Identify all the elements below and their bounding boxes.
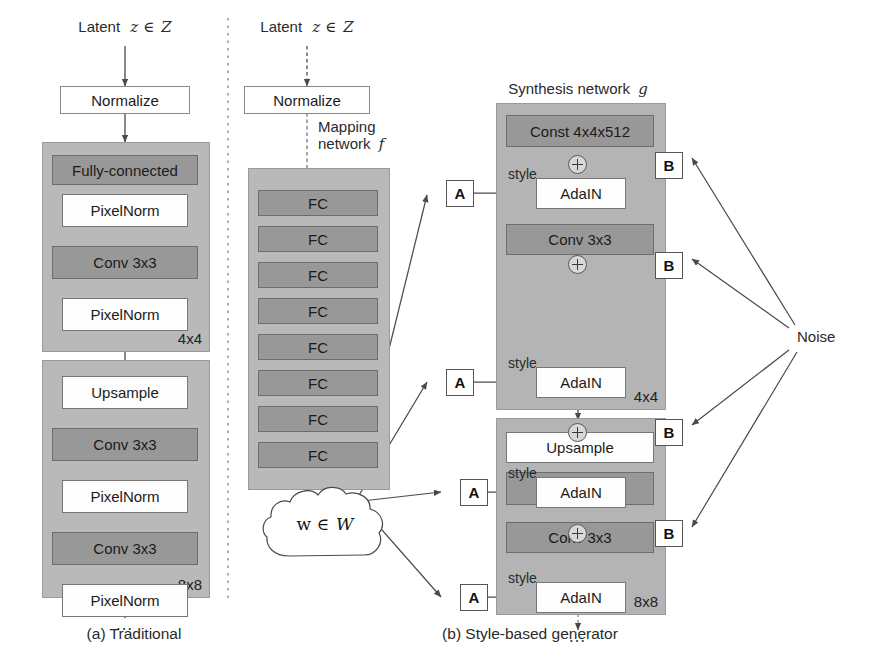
fc-layer-6[interactable]: FC (258, 370, 378, 396)
fc-layer-8[interactable]: FC (258, 442, 378, 468)
adain-box-3[interactable]: AdaIN (536, 477, 626, 508)
adain-box-4[interactable]: AdaIN (536, 582, 626, 613)
w-space: W (334, 514, 353, 534)
fc-label: FC (308, 339, 328, 356)
adain-box-1[interactable]: AdaIN (536, 178, 626, 209)
fc-label: FC (308, 303, 328, 320)
panel-a-pixelnorm-box-3[interactable]: PixelNorm (62, 480, 188, 513)
noise-add-node-1 (568, 155, 587, 174)
latent-symbol: z ∈ (306, 18, 336, 36)
synthesis-network-title: Synthesis network g (508, 80, 648, 98)
fc-layer-7[interactable]: FC (258, 406, 378, 432)
latent-space: Z (158, 18, 171, 36)
fc-layer-3[interactable]: FC (258, 262, 378, 288)
intermediate-latent-cloud: w ∈ W (258, 482, 392, 566)
fc-label: FC (308, 375, 328, 392)
affine-transform-a-2[interactable]: A (446, 369, 474, 396)
noise-scale-b-1[interactable]: B (655, 152, 683, 179)
synthesis-title-symbol: g (634, 80, 648, 98)
panel-a-pixelnorm-box-1[interactable]: PixelNorm (62, 194, 188, 227)
mapping-title-line2: network (318, 135, 371, 152)
tap-label: B (664, 157, 675, 174)
fc-layer-5[interactable]: FC (258, 334, 378, 360)
node-label: AdaIN (560, 484, 602, 501)
panel-a-conv-box-2[interactable]: Conv 3x3 (52, 428, 198, 461)
tap-label: A (455, 374, 466, 391)
affine-transform-a-4[interactable]: A (460, 584, 488, 611)
panel-a-conv-box-3[interactable]: Conv 3x3 (52, 532, 198, 565)
style-label-3: style (508, 465, 537, 481)
panel-a-pixelnorm-box-4[interactable]: PixelNorm (62, 584, 188, 617)
fc-label: FC (308, 267, 328, 284)
fc-layer-4[interactable]: FC (258, 298, 378, 324)
node-label: PixelNorm (90, 306, 159, 323)
mapping-title-line1: Mapping (318, 118, 384, 135)
const-input-box[interactable]: Const 4x4x512 (506, 115, 654, 147)
fc-label: FC (308, 411, 328, 428)
panel-a-upsample-box[interactable]: Upsample (62, 376, 188, 409)
stage-size-label: 8x8 (634, 593, 658, 610)
noise-scale-b-4[interactable]: B (655, 520, 683, 547)
tap-label: B (664, 257, 675, 274)
fc-layer-2[interactable]: FC (258, 226, 378, 252)
panel-a-latent-label: Latent z ∈ Z (78, 18, 171, 36)
latent-text: Latent (78, 18, 120, 35)
fc-label: FC (308, 195, 328, 212)
node-label: Conv 3x3 (93, 436, 156, 453)
panel-a-pixelnorm-box-2[interactable]: PixelNorm (62, 298, 188, 331)
panel-b-latent-label: Latent z ∈ Z (260, 18, 353, 36)
node-label: AdaIN (560, 185, 602, 202)
node-label: PixelNorm (90, 202, 159, 219)
synthesis-title-text: Synthesis network (508, 80, 630, 97)
node-label: Conv 3x3 (548, 231, 611, 248)
fc-label: FC (308, 231, 328, 248)
node-label: AdaIN (560, 374, 602, 391)
tap-label: A (455, 185, 466, 202)
mapping-network-title: Mapping network f (318, 118, 384, 154)
cloud-label: w ∈ W (258, 514, 392, 535)
noise-scale-b-2[interactable]: B (655, 252, 683, 279)
noise-add-node-4 (568, 524, 587, 543)
latent-text: Latent (260, 18, 302, 35)
style-label-2: style (508, 355, 537, 371)
adain-box-2[interactable]: AdaIN (536, 367, 626, 398)
noise-scale-b-3[interactable]: B (655, 419, 683, 446)
tap-label: B (664, 525, 675, 542)
node-label: Fully-connected (72, 162, 178, 179)
latent-space: Z (340, 18, 353, 36)
node-label: Const 4x4x512 (530, 123, 630, 140)
style-label-1: style (508, 166, 537, 182)
normalize-label: Normalize (273, 92, 341, 109)
style-label-4: style (508, 570, 537, 586)
w-symbol: w ∈ (297, 514, 330, 534)
normalize-label: Normalize (91, 92, 159, 109)
noise-label: Noise (797, 328, 835, 345)
mapping-title-line2-wrap: network f (318, 135, 384, 153)
panel-b-normalize-box[interactable]: Normalize (244, 86, 370, 114)
affine-transform-a-1[interactable]: A (446, 180, 474, 207)
node-label: AdaIN (560, 589, 602, 606)
noise-add-node-2 (568, 255, 587, 274)
node-label: Conv 3x3 (93, 254, 156, 271)
fc-layer-1[interactable]: FC (258, 190, 378, 216)
stage-size-label: 4x4 (178, 330, 202, 347)
stage-size-label: 4x4 (634, 388, 658, 405)
panel-a-caption: (a) Traditional (87, 625, 182, 643)
node-label: Conv 3x3 (93, 540, 156, 557)
mapping-title-symbol: f (375, 135, 385, 153)
panel-a-conv-box-1[interactable]: Conv 3x3 (52, 246, 198, 279)
panel-a-fully-connected-box[interactable]: Fully-connected (52, 155, 198, 185)
tap-label: A (469, 484, 480, 501)
node-label: PixelNorm (90, 488, 159, 505)
fc-label: FC (308, 447, 328, 464)
node-label: Upsample (91, 384, 159, 401)
tap-label: B (664, 424, 675, 441)
panel-a-normalize-box[interactable]: Normalize (60, 86, 190, 114)
latent-symbol: z ∈ (124, 18, 154, 36)
synthesis-conv-box-1[interactable]: Conv 3x3 (506, 224, 654, 255)
panel-b-caption: (b) Style-based generator (442, 625, 618, 643)
node-label: PixelNorm (90, 592, 159, 609)
noise-add-node-3 (568, 423, 587, 442)
tap-label: A (469, 589, 480, 606)
affine-transform-a-3[interactable]: A (460, 479, 488, 506)
